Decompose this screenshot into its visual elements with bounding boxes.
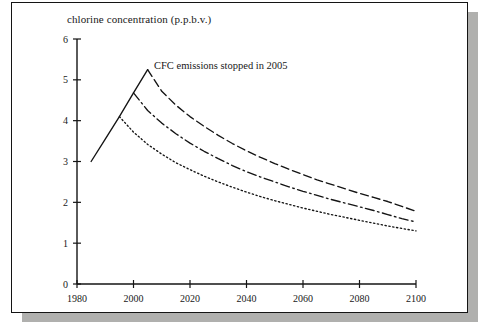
chart-series-line [134,93,417,222]
plot-area: chlorine concentration (p.p.b.v.) CFC em… [12,3,469,314]
y-tick-label: 4 [63,115,68,126]
chart-series-line [119,117,416,231]
chart-svg: 0123456 1980200020202040206020802100 [12,3,469,314]
x-tick-label: 2060 [293,293,313,304]
y-tick-label: 6 [63,34,68,45]
x-tick-label: 2000 [124,293,144,304]
chart-series-group [91,70,416,231]
page-root: chlorine concentration (p.p.b.v.) CFC em… [0,0,496,332]
y-tick-label: 1 [63,238,68,249]
y-axis-ticks: 0123456 [63,34,81,290]
chart-series-line [148,70,416,212]
x-tick-label: 2080 [350,293,370,304]
x-tick-label: 2100 [406,293,426,304]
chart-series-line [91,70,148,162]
y-tick-label: 3 [63,156,68,167]
y-tick-label: 2 [63,197,68,208]
x-tick-label: 2040 [237,293,257,304]
y-tick-label: 5 [63,74,68,85]
figure-frame: chlorine concentration (p.p.b.v.) CFC em… [11,2,468,313]
x-tick-label: 1980 [67,293,87,304]
y-tick-label: 0 [63,279,68,290]
x-tick-label: 2020 [180,293,200,304]
chart-axes [77,39,416,284]
